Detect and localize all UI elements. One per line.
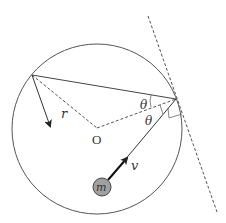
velocity-label: v [131, 158, 139, 173]
mass-label: m [96, 181, 106, 194]
chord-line [32, 75, 176, 99]
tangent-line [148, 16, 217, 212]
angle-arc-bottom [160, 105, 163, 114]
radius-label: r [61, 106, 68, 121]
diagram-canvas: r O θ θ v m [0, 0, 226, 223]
velocity-arrow [108, 158, 127, 180]
angle-label-bottom: θ [145, 114, 153, 128]
angle-label-top: θ [140, 98, 148, 112]
center-label: O [92, 132, 101, 147]
physics-diagram: r O θ θ v m [0, 0, 226, 223]
angle-arc-top [150, 95, 151, 107]
